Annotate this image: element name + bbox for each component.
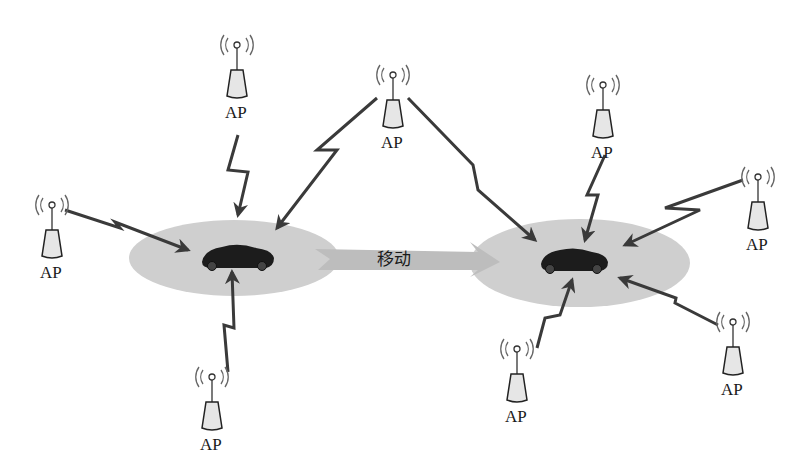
svg-text:AP: AP (200, 435, 222, 454)
signal-ap6 (625, 180, 743, 245)
access-point-icon: AP (196, 367, 229, 454)
svg-text:AP: AP (505, 407, 527, 426)
mobility-handover-diagram: 移动 AP AP AP AP AP AP AP AP (0, 0, 798, 474)
movement-label: 移动 (377, 249, 411, 269)
signal-ap2-left (277, 98, 377, 228)
access-point-icon: AP (36, 195, 69, 282)
access-point-icon: AP (717, 312, 750, 399)
svg-text:AP: AP (225, 103, 247, 122)
access-point-icon: AP (221, 35, 254, 122)
svg-text:AP: AP (746, 235, 768, 254)
access-point-icon: AP (742, 167, 775, 254)
svg-text:AP: AP (381, 133, 403, 152)
access-point-icon: AP (501, 339, 534, 426)
svg-text:AP: AP (40, 263, 62, 282)
access-point-icon: AP (587, 75, 620, 162)
svg-text:AP: AP (591, 143, 613, 162)
access-point-icon: AP (377, 65, 410, 152)
svg-text:AP: AP (721, 380, 743, 399)
signal-ap2-right (408, 98, 535, 240)
signal-ap1 (228, 135, 248, 215)
